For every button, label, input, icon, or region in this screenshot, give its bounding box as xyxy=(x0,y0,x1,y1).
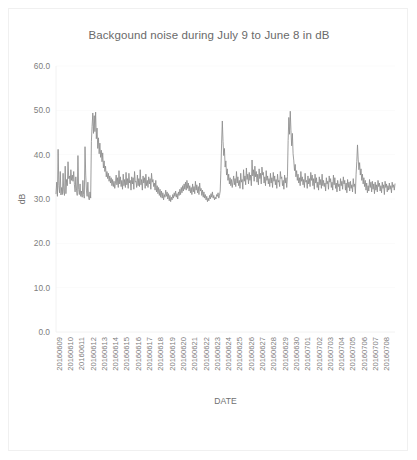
chart-container: Backgound noise during July 9 to June 8 … xyxy=(8,8,408,451)
x-axis-tick-label: 20160705 xyxy=(348,337,357,371)
x-axis-tick-label: 20160625 xyxy=(235,337,244,371)
x-axis-tick-label: 20160615 xyxy=(122,337,131,371)
x-axis-tick-label: 20160702 xyxy=(315,337,324,371)
x-axis-tick-label: 20160628 xyxy=(269,337,278,371)
x-axis-tick-labels: 2016060920160610201606112016061220160613… xyxy=(55,337,392,371)
data-series-line xyxy=(56,111,395,201)
y-axis-tick-label: 60.0 xyxy=(34,61,51,71)
x-axis-tick-label: 20160708 xyxy=(382,337,391,371)
x-axis-tick-label: 20160624 xyxy=(224,337,233,371)
x-axis-tick-label: 20160619 xyxy=(168,337,177,371)
x-axis-tick-label: 20160706 xyxy=(360,337,369,371)
x-axis-tick-label: 20160620 xyxy=(179,337,188,371)
y-axis-tick-label: 50.0 xyxy=(34,105,51,115)
y-axis-tick-label: 40.0 xyxy=(34,150,51,160)
x-axis-tick-label: 20160703 xyxy=(326,337,335,371)
x-axis-tick-label: 20160627 xyxy=(258,337,267,371)
chart-plot-area: 0.010.020.030.040.050.060.0 201606092016… xyxy=(9,9,409,452)
x-axis-tick-label: 20160617 xyxy=(145,337,154,371)
x-axis-tick-label: 20160611 xyxy=(77,337,86,370)
x-axis-tick-label: 20160609 xyxy=(55,337,64,371)
gridlines xyxy=(56,66,395,332)
y-axis-tick-label: 30.0 xyxy=(34,194,51,204)
y-axis-tick-label: 0.0 xyxy=(38,327,50,337)
x-axis-tick-label: 20160623 xyxy=(213,337,222,371)
x-axis-tick-label: 20160704 xyxy=(337,337,346,371)
x-axis-title: DATE xyxy=(214,396,237,406)
x-axis-tick-label: 20160616 xyxy=(134,337,143,371)
x-axis-tick-label: 20160622 xyxy=(202,337,211,371)
y-axis-tick-label: 20.0 xyxy=(34,238,51,248)
x-axis-tick-label: 20160618 xyxy=(156,337,165,371)
x-axis-tick-label: 20160613 xyxy=(100,337,109,371)
x-axis-tick-label: 20160630 xyxy=(292,337,301,371)
x-axis-tick-label: 20160610 xyxy=(66,337,75,371)
x-axis-tick-label: 20160621 xyxy=(190,337,199,371)
x-axis-tick-label: 20160707 xyxy=(371,337,380,371)
x-axis-tick-label: 20160614 xyxy=(111,337,120,371)
x-axis-tick-label: 20160629 xyxy=(281,337,290,371)
y-axis-tick-label: 10.0 xyxy=(34,283,51,293)
x-axis-tick-label: 20160612 xyxy=(89,337,98,371)
x-axis-tick-label: 20160701 xyxy=(303,337,312,371)
x-axis-tick-label: 20160626 xyxy=(247,337,256,371)
y-axis-tick-labels: 0.010.020.030.040.050.060.0 xyxy=(34,61,51,337)
y-axis-title: dB xyxy=(17,193,27,204)
